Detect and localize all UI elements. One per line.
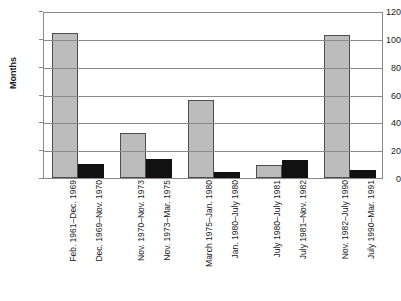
x-tick-label: July 1980–July 1981 — [272, 180, 282, 295]
x-tick-label: Nov. 1982–July 1990 — [340, 180, 350, 295]
x-tick-label: July 1981–Nov. 1982 — [298, 180, 308, 295]
x-tick-label: Feb. 1961–Dec. 1969 — [68, 180, 78, 295]
y-tick-mark — [39, 150, 43, 151]
y-axis-title: Months — [8, 43, 18, 103]
y-tick-mark — [39, 39, 43, 40]
bar-chart: Months Feb. 1961–Dec. 1969Dec. 1969–Nov.… — [0, 0, 401, 301]
bar — [78, 164, 104, 178]
y-tick-mark — [39, 67, 43, 68]
gridline — [44, 123, 382, 124]
y-tick-mark — [39, 95, 43, 96]
bar — [324, 35, 350, 178]
y-tick-label: 80 — [367, 63, 401, 73]
x-tick-label: July 1990–Mar. 1991 — [366, 180, 376, 295]
x-tick-label: Nov. 1973–Mar. 1975 — [162, 180, 172, 295]
bar — [120, 133, 146, 178]
gridline — [44, 96, 382, 97]
y-tick-label: 100 — [367, 35, 401, 45]
bar — [188, 100, 214, 178]
y-tick-label: 120 — [367, 7, 401, 17]
x-tick-label: March 1975–Jan. 1980 — [204, 180, 214, 295]
plot-area — [43, 12, 383, 179]
bar — [214, 172, 240, 178]
y-tick-label: 20 — [367, 146, 401, 156]
gridline — [44, 40, 382, 41]
x-tick-label: Nov. 1970–Nov. 1973 — [136, 180, 146, 295]
bar — [146, 159, 172, 178]
y-tick-label: 60 — [367, 91, 401, 101]
y-tick-mark — [39, 178, 43, 179]
y-tick-label: 0 — [367, 174, 401, 184]
x-tick-label: Jan. 1980–July 1980 — [230, 180, 240, 295]
gridline — [44, 151, 382, 152]
bar — [256, 165, 282, 178]
x-axis-labels: Feb. 1961–Dec. 1969Dec. 1969–Nov. 1970No… — [43, 180, 383, 298]
gridline — [44, 68, 382, 69]
y-tick-mark — [39, 122, 43, 123]
bar — [52, 33, 78, 178]
bar — [282, 160, 308, 178]
y-tick-mark — [39, 11, 43, 12]
y-tick-label: 40 — [367, 118, 401, 128]
x-tick-label: Dec. 1969–Nov. 1970 — [94, 180, 104, 295]
